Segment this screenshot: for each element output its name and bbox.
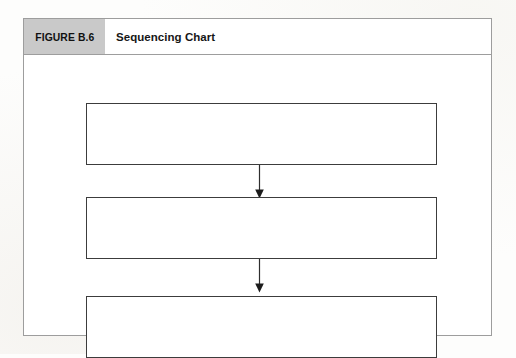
figure-header: FIGURE B.6 Sequencing Chart — [24, 19, 491, 55]
flow-step-box-3[interactable] — [86, 296, 437, 358]
figure-number-label: FIGURE B.6 — [35, 31, 94, 43]
flow-step-box-1[interactable] — [86, 103, 437, 165]
sequencing-chart-canvas — [24, 55, 491, 336]
figure-title-cell: Sequencing Chart — [106, 19, 491, 54]
flow-step-label-1 — [87, 104, 436, 116]
flow-connector-arrow-1 — [253, 165, 266, 199]
figure-number-badge: FIGURE B.6 — [24, 19, 106, 54]
figure-frame: FIGURE B.6 Sequencing Chart — [23, 18, 492, 336]
flow-connector-arrow-2 — [253, 259, 266, 293]
flow-step-label-2 — [87, 198, 436, 210]
flow-step-label-3 — [87, 297, 436, 309]
flow-step-box-2[interactable] — [86, 197, 437, 259]
figure-title: Sequencing Chart — [116, 31, 215, 43]
